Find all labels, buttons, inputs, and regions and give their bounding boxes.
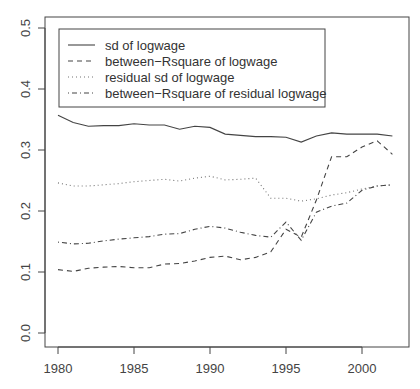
y-tick-label: 0.4 [18, 80, 33, 98]
legend-label: between−Rsquare of logwage [105, 54, 277, 69]
x-tick-label: 1980 [44, 361, 73, 376]
series-line-1 [58, 141, 392, 272]
legend-label: residual sd of logwage [105, 70, 234, 85]
series-layer [58, 115, 392, 271]
y-tick-label: 0.5 [18, 19, 33, 37]
series-line-0 [58, 115, 392, 142]
y-tick-label: 0.2 [18, 202, 33, 220]
x-tick-label: 2000 [348, 361, 377, 376]
series-line-2 [58, 176, 392, 201]
y-tick-label: 0.3 [18, 141, 33, 159]
x-tick-label: 1995 [272, 361, 301, 376]
x-tick-label: 1990 [196, 361, 225, 376]
y-tick-label: 0.0 [18, 324, 33, 342]
x-axis: 19801985199019952000 [44, 347, 377, 376]
legend: sd of logwagebetween−Rsquare of logwager… [59, 29, 327, 107]
y-axis: 0.00.10.20.30.40.5 [18, 19, 45, 342]
line-chart: 0.00.10.20.30.40.5 19801985199019952000 … [0, 0, 420, 389]
x-tick-label: 1985 [120, 361, 149, 376]
legend-label: sd of logwage [105, 38, 185, 53]
legend-label: between−Rsquare of residual logwage [105, 86, 327, 101]
y-tick-label: 0.1 [18, 263, 33, 281]
